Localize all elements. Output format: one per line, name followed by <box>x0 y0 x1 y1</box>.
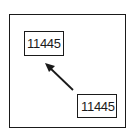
arrow-icon <box>0 0 134 136</box>
